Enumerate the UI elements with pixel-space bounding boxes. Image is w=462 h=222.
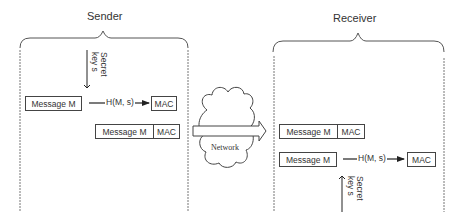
secret-key-line1: Secret xyxy=(355,176,364,201)
sender-brace xyxy=(20,31,188,48)
sender-hash-label: H(M, s) xyxy=(105,97,135,107)
receiver-hash-label: H(M, s) xyxy=(357,153,387,163)
receiver-mac-box: MAC xyxy=(407,152,436,167)
receiver-received-mac: MAC xyxy=(338,125,364,138)
sender-mac-box: MAC xyxy=(151,96,177,111)
secret-key-line1: Secret xyxy=(99,52,108,77)
sender-output-message: Message M xyxy=(96,125,154,138)
receiver-title: Receiver xyxy=(333,12,376,24)
secret-key-line2: key s xyxy=(90,52,99,77)
sender-output-packet: Message M MAC xyxy=(95,124,180,139)
sender-output-mac: MAC xyxy=(154,125,179,138)
sender-message-box: Message M xyxy=(25,96,82,111)
receiver-brace xyxy=(273,33,444,52)
sender-title: Sender xyxy=(87,10,122,22)
diagram-canvas xyxy=(0,0,462,222)
receiver-message-box: Message M xyxy=(279,152,337,167)
sender-secret-key-label: Secret key s xyxy=(90,52,108,77)
secret-key-line2: key s xyxy=(346,176,355,201)
network-label: Network xyxy=(211,143,239,152)
receiver-received-packet: Message M MAC xyxy=(279,124,365,139)
receiver-secret-key-label: Secret key s xyxy=(346,176,364,201)
receiver-received-message: Message M xyxy=(280,125,338,138)
